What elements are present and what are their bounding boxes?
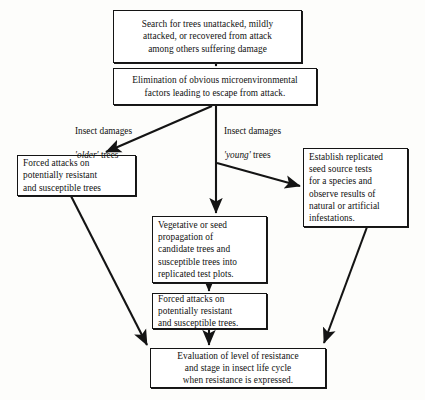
node-elimination[interactable]: Elimination of obvious microenvironmenta… <box>113 68 317 105</box>
node-establish-seed-source[interactable]: Establish replicated seed source tests f… <box>303 148 408 227</box>
flowchart-canvas: Search for trees unattacked, mildly atta… <box>0 0 425 400</box>
edge-label-young: Insect damages 'young' trees <box>224 113 281 161</box>
edge-label-older-line2-rest: trees <box>99 150 119 160</box>
edge-elimination-to-establish <box>217 163 300 186</box>
edge-label-young-emphasis: 'young' <box>224 150 251 160</box>
node-search[interactable]: Search for trees unattacked, mildly atta… <box>113 10 302 63</box>
node-evaluation[interactable]: Evaluation of level of resistance and st… <box>150 348 326 388</box>
node-search-text: Search for trees unattacked, mildly atta… <box>114 16 301 56</box>
edge-label-young-line1: Insect damages <box>224 126 281 136</box>
node-establish-seed-source-text: Establish replicated seed source tests f… <box>304 149 407 225</box>
edge-establish-to-evaluation <box>324 227 367 343</box>
edge-label-older: Insect damages 'older' trees <box>75 113 132 161</box>
node-vegetative-propagation[interactable]: Vegetative or seed propagation of candid… <box>152 216 267 283</box>
node-forced-attacks-mid-text: Forced attacks on potentially resistant … <box>153 291 266 331</box>
node-vegetative-propagation-text: Vegetative or seed propagation of candid… <box>153 217 266 281</box>
node-forced-attacks-mid[interactable]: Forced attacks on potentially resistant … <box>152 293 267 329</box>
node-forced-attacks-left-text: Forced attacks on potentially resistant … <box>18 155 135 195</box>
edge-forced-left-to-evaluation <box>71 196 147 345</box>
node-elimination-text: Elimination of obvious microenvironmenta… <box>114 72 316 100</box>
edge-label-older-line1: Insect damages <box>75 126 132 136</box>
node-evaluation-text: Evaluation of level of resistance and st… <box>151 348 325 388</box>
edge-label-older-emphasis: 'older' <box>75 150 99 160</box>
edge-label-young-line2-rest: trees <box>251 150 271 160</box>
